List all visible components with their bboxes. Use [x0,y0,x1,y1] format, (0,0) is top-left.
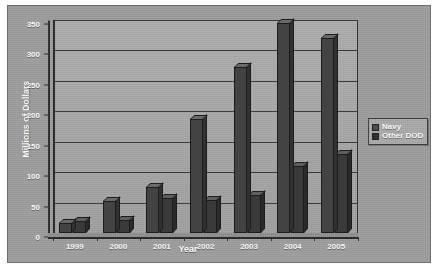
x-axis-tick-mark [140,237,141,241]
bar-side-face [173,194,177,233]
x-axis-tick-mark [184,237,185,241]
legend-item-other-dod[interactable]: Other DOD [372,132,423,140]
bar-navy-2004 [277,23,290,233]
y-axis-tick-label: 150 [8,141,40,150]
bar-front-face [59,223,72,233]
x-axis-tick-mark [97,237,98,241]
x-axis-line [48,237,359,239]
bar-front-face [146,187,159,233]
bar-side-face [247,63,251,233]
bar-navy-2000 [103,201,116,233]
y-axis-tick-label: 50 [8,202,40,211]
legend-item-navy[interactable]: Navy [372,123,423,131]
legend-label-navy: Navy [382,123,401,131]
y-axis-tick-label: 0 [8,233,40,242]
bar-side-face [217,195,221,233]
x-axis-tick-mark [227,237,228,241]
legend-label-other-dod: Other DOD [382,132,423,140]
bar-front-face [103,201,116,233]
x-axis-tick-mark [358,237,359,241]
y-axis-tick-label: 350 [8,20,40,29]
bar-side-face [348,149,352,233]
bar-side-face [290,18,294,233]
bar-navy-2001 [146,187,159,233]
y-axis-tick-label: 100 [8,172,40,181]
bar-front-face [277,23,290,233]
bar-side-face [304,161,308,233]
y-axis-line-front [48,24,50,237]
bar-navy-1999 [59,223,72,233]
bar-side-face [334,33,338,233]
bar-navy-2003 [234,67,247,233]
legend-swatch-navy [372,124,379,131]
chart-screenshot: Millions of Dollars 05010015020025030035… [0,0,438,271]
bar-navy-2005 [321,38,334,233]
bar-front-face [321,38,334,233]
bar-side-face [261,190,265,233]
chart-legend: Navy Other DOD [368,118,428,145]
bar-side-face [159,183,163,233]
bar-side-face [116,197,120,233]
legend-swatch-other-dod [372,133,379,140]
y-axis-tick-label: 200 [8,111,40,120]
y-axis-tick-label: 300 [8,50,40,59]
x-axis-tick-mark [53,237,54,241]
bar-side-face [203,114,207,233]
x-axis-tick-mark [314,237,315,241]
bar-front-face [190,119,203,233]
chart-canvas: Millions of Dollars 05010015020025030035… [7,5,431,263]
bars-layer [53,20,358,233]
y-axis-tick-label: 250 [8,80,40,89]
x-axis-tick-mark [271,237,272,241]
x-axis-title: Year [8,244,368,254]
bar-front-face [234,67,247,233]
bar-navy-2002 [190,119,203,233]
